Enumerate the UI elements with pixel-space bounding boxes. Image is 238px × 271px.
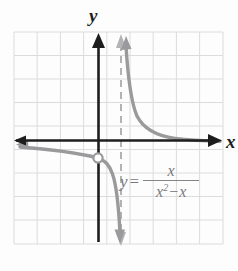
hole-open-circle [93,153,102,162]
fraction-denominator: x2−x [152,181,190,200]
fraction-numerator: x [162,163,181,180]
rational-function-figure: y x y = x x2−x [0,0,238,271]
denominator-second-term: x [179,183,186,200]
x-axis-arrow-icon [208,134,222,147]
x-axis-label: x [226,132,236,151]
curve-left-path-lower [98,158,120,230]
graph-canvas [0,0,238,271]
equation-annotation: y = x x2−x [120,163,199,200]
y-axis-label: y [89,6,97,25]
equation-left-side: y [120,173,128,190]
equation-equals-sign: = [130,173,140,190]
curve-right-path [126,46,220,141]
curve-left-path-upper [20,147,98,158]
denominator-minus-sign: − [168,183,179,200]
curve-left-branch [16,140,125,245]
curve-right-branch [121,36,220,141]
y-axis-arrow-icon [92,33,105,48]
equation-fraction: x x2−x [143,163,199,200]
